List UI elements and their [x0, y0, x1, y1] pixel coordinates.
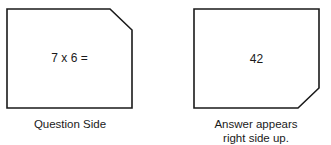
- answer-card-text: 42: [194, 52, 319, 66]
- answer-side-caption: Answer appears right side up.: [186, 117, 326, 145]
- answer-caption-line-1: Answer appears: [186, 117, 326, 131]
- answer-caption-line-2: right side up.: [186, 131, 326, 145]
- question-card-text: 7 x 6 =: [7, 51, 132, 65]
- question-side-caption: Question Side: [0, 117, 140, 131]
